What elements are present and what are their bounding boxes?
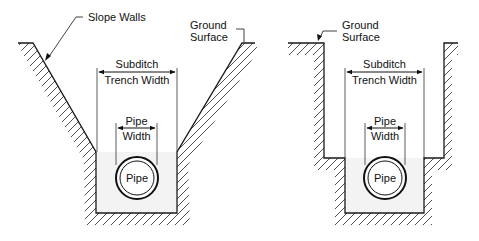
pipe-width-label-left-2: Width [116,130,157,142]
pipe-width-label-right-2: Width [365,130,405,142]
trench-width-label-right: Trench Width [345,74,424,86]
pipe-width-label-right-1: Pipe [365,115,405,127]
ground-label-right: Ground [342,19,379,31]
subditch-label-right: Subditch [345,58,424,70]
surface-label-left: Surface [190,31,228,43]
trench-diagram [0,0,479,241]
ground-label-left: Ground [190,19,227,31]
pipe-width-label-left-1: Pipe [116,115,157,127]
surface-label-right: Surface [342,31,380,43]
pipe-label-right: Pipe [365,172,405,184]
slope-walls-label: Slope Walls [88,11,146,23]
trench-width-label-left: Trench Width [97,74,177,86]
pipe-label-left: Pipe [117,172,157,184]
subditch-label-left: Subditch [97,58,177,70]
